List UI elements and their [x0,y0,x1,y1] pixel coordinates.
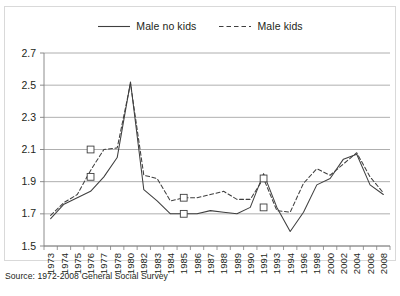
data-point-marker [87,146,94,153]
x-tick-label: 2008 [378,253,389,274]
data-point-marker [87,173,94,180]
y-tick-label: 2.3 [21,111,36,123]
y-tick-label: 2.1 [21,143,36,155]
chart-figure: Male no kids Male kids 1.51.71.92.12.32.… [0,0,400,296]
x-tick-label: 2002 [338,253,349,274]
y-tick-label: 1.9 [21,175,36,187]
source-note: Source: 1972-2008 General Social Survey [5,271,168,281]
x-tick-label: 1990 [245,253,256,274]
x-tick-label: 1986 [192,253,203,274]
data-point-marker [180,194,187,201]
x-tick-label: 1991 [258,253,269,274]
y-tick-label: 1.5 [21,240,36,252]
data-point-marker [180,210,187,217]
x-tick-label: 1988 [218,253,229,274]
x-tick-label: 1998 [311,253,322,274]
data-point-marker [260,204,267,211]
y-tick-label: 2.7 [21,47,36,59]
data-series [51,82,384,232]
x-tick-label: 1994 [285,253,296,274]
y-tick-label: 2.5 [21,79,36,91]
x-tick-label: 1993 [271,253,282,274]
x-axis-ticks: 1973197419751976197719781980198219831984… [44,246,390,274]
x-tick-label: 2006 [365,253,376,274]
x-tick-label: 1985 [178,253,189,274]
x-tick-label: 2004 [351,253,362,274]
x-tick-label: 2000 [325,253,336,274]
y-tick-label: 1.7 [21,207,36,219]
data-point-marker [260,175,267,182]
x-tick-label: 1996 [298,253,309,274]
grid-lines [44,53,390,246]
series-line-male-no-kids [51,82,384,232]
y-axis-ticks: 1.51.71.92.12.32.52.7 [21,47,44,252]
x-tick-label: 1989 [232,253,243,274]
chart-plot-area: 1.51.71.92.12.32.52.7 197319741975197619… [0,0,400,296]
x-tick-label: 1987 [205,253,216,274]
